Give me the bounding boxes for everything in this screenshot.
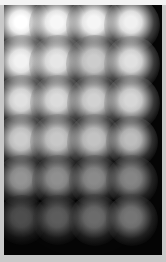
spot-r6-c2 <box>33 195 83 245</box>
spot-r4-c2 <box>30 114 86 170</box>
spot-r1-c4 <box>104 5 160 53</box>
spot-r2-c3 <box>66 35 125 94</box>
spot-r2-c4 <box>104 36 160 92</box>
spot-r1-c2 <box>29 5 88 54</box>
spot-r2-c2 <box>29 35 88 94</box>
spot-r1-c3 <box>66 5 125 54</box>
spot-r6-c4 <box>106 194 159 247</box>
spot-r5-c1 <box>4 155 48 208</box>
spot-r6-c1 <box>4 195 47 245</box>
spot-r4-c4 <box>106 116 159 169</box>
spot-r2-c1 <box>4 35 51 94</box>
spot-r4-c1 <box>4 114 50 170</box>
spot-r5-c3 <box>69 155 122 208</box>
spot-r6-c3 <box>69 194 122 247</box>
spot-r3-c3 <box>67 75 123 131</box>
spot-grid <box>4 5 162 255</box>
spot-r5-c2 <box>32 155 85 208</box>
screenshot-viewport <box>0 0 166 262</box>
spot-r1-c1 <box>4 5 51 54</box>
spot-r5-c4 <box>106 155 159 208</box>
spot-r3-c4 <box>104 75 160 131</box>
spot-r4-c3 <box>67 114 123 170</box>
spot-r3-c2 <box>30 75 86 131</box>
imaging-field <box>4 5 162 255</box>
spot-r3-c1 <box>4 75 50 131</box>
